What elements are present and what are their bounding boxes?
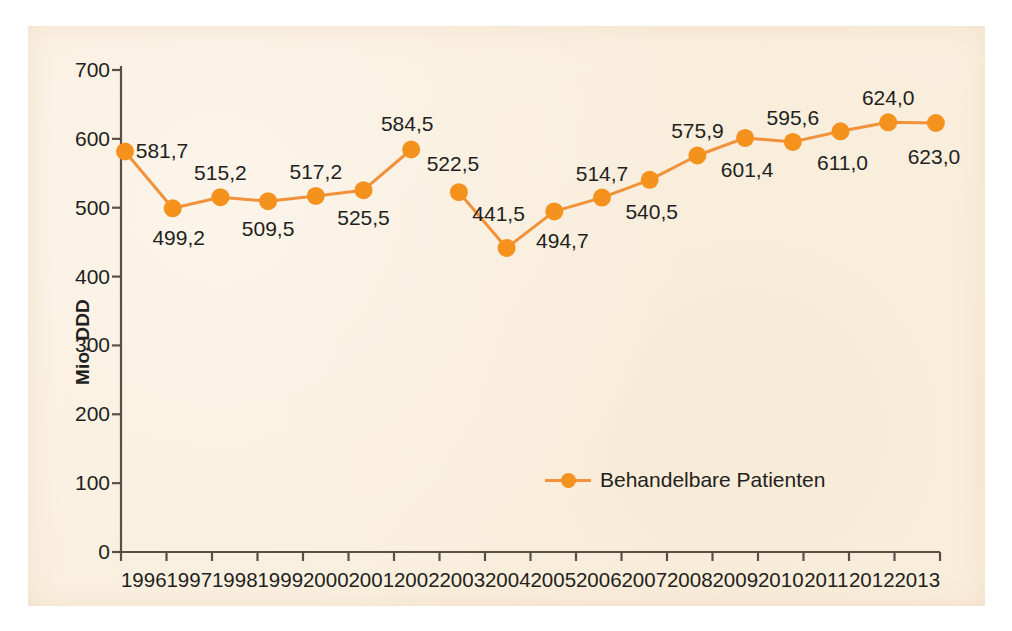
data-point-marker[interactable] (259, 192, 277, 210)
y-axis-tick-label: 200 (40, 402, 110, 426)
y-axis-tick-label: 500 (40, 196, 110, 220)
x-axis-ticks (121, 552, 940, 561)
data-point-value-label: 584,5 (381, 112, 434, 136)
data-point-value-label: 595,6 (767, 106, 820, 130)
data-point-value-label: 514,7 (576, 162, 629, 186)
data-point-marker[interactable] (545, 202, 563, 220)
data-point-value-label: 540,5 (625, 200, 678, 224)
x-axis-tick-label: 2013 (894, 568, 940, 592)
y-axis-tick-label: 300 (40, 333, 110, 357)
data-point-marker[interactable] (927, 114, 945, 132)
data-point-marker[interactable] (402, 141, 420, 159)
x-axis-tick-label: 2009 (712, 568, 758, 592)
x-axis-tick-label: 2006 (576, 568, 622, 592)
x-axis-tick-label: 2010 (758, 568, 804, 592)
data-point-marker[interactable] (832, 122, 850, 140)
y-axis-tick-label: 100 (40, 471, 110, 495)
y-axis-tick-label: 400 (40, 265, 110, 289)
x-axis-tick-label: 2003 (439, 568, 485, 592)
y-axis-tick-label: 0 (40, 540, 110, 564)
data-point-value-label: 581,7 (136, 139, 189, 163)
data-point-value-label: 525,5 (337, 206, 390, 230)
data-point-marker[interactable] (164, 199, 182, 217)
x-axis-tick-label: 1999 (257, 568, 303, 592)
data-point-value-label: 515,2 (194, 161, 247, 185)
data-point-value-label: 601,4 (721, 158, 774, 182)
chart-plot-svg (0, 0, 1012, 631)
data-point-value-label: 522,5 (427, 152, 480, 176)
data-point-value-label: 494,7 (536, 229, 589, 253)
data-point-marker[interactable] (736, 129, 754, 147)
data-point-marker[interactable] (641, 171, 659, 189)
data-point-value-label: 517,2 (290, 160, 343, 184)
data-point-value-label: 611,0 (817, 151, 868, 175)
x-axis-tick-label: 2012 (849, 568, 895, 592)
data-point-value-label: 499,2 (152, 226, 205, 250)
chart-legend: Behandelbare Patienten (545, 468, 825, 492)
y-axis-tick-label: 700 (40, 58, 110, 82)
x-axis-tick-label: 2001 (348, 568, 394, 592)
legend-marker-icon (545, 471, 591, 489)
y-axis-tick-label: 600 (40, 127, 110, 151)
data-point-value-label: 623,0 (908, 145, 961, 169)
x-axis-tick-label: 2005 (530, 568, 576, 592)
x-axis-tick-label: 2002 (394, 568, 440, 592)
data-point-marker[interactable] (307, 187, 325, 205)
data-point-marker[interactable] (498, 239, 516, 257)
x-axis-tick-label: 2007 (621, 568, 667, 592)
data-point-marker[interactable] (211, 188, 229, 206)
x-axis-tick-label: 1997 (166, 568, 212, 592)
x-axis-tick-label: 1998 (212, 568, 258, 592)
data-point-marker[interactable] (355, 181, 373, 199)
chart-figure: Mio. DDD 0100200300400500600700 19961997… (0, 0, 1012, 631)
x-axis-tick-label: 2000 (303, 568, 349, 592)
x-axis-tick-label: 2008 (667, 568, 713, 592)
x-axis-tick-label: 2011 (804, 568, 848, 592)
data-point-marker[interactable] (879, 113, 897, 131)
data-point-marker[interactable] (593, 189, 611, 207)
x-axis-tick-label: 2004 (485, 568, 531, 592)
data-point-marker[interactable] (784, 133, 802, 151)
data-point-marker[interactable] (450, 183, 468, 201)
legend-label: Behandelbare Patienten (600, 468, 825, 492)
data-point-value-label: 509,5 (242, 217, 295, 241)
data-point-value-label: 624,0 (862, 86, 915, 110)
data-point-value-label: 575,9 (671, 119, 724, 143)
data-point-marker[interactable] (116, 143, 134, 161)
x-axis-tick-label: 1996 (121, 568, 167, 592)
data-point-marker[interactable] (688, 147, 706, 165)
data-point-value-label: 441,5 (472, 202, 525, 226)
y-axis-ticks (112, 70, 121, 552)
